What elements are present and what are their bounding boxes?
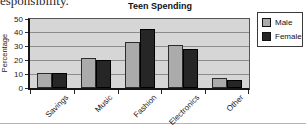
x-category-label-music: Music [65,93,114,125]
bar-male-fashion [125,42,140,88]
bar-male-other [212,78,227,88]
y-tick-label-0: 0 [0,84,23,93]
x-category-label-savings: Savings [21,93,70,125]
y-tick-label-10: 10 [0,70,23,79]
y-tick-mark-40 [25,32,28,33]
bar-female-other [227,80,242,88]
legend-label-female: Female [275,32,302,41]
y-tick-label-50: 50 [0,15,23,24]
bar-female-savings [52,73,67,88]
y-tick-label-40: 40 [0,28,23,37]
x-category-label-other: Other [197,93,246,125]
chart-title: Teen Spending [90,1,230,11]
y-tick-label-20: 20 [0,56,23,65]
plot-area [28,18,250,90]
legend-swatch-female [262,32,271,41]
bar-female-fashion [140,29,155,88]
x-category-label-fashion: Fashion [109,93,158,125]
x-tick-mark-5 [248,90,249,94]
bar-female-electronics [183,49,198,88]
x-tick-mark-0 [30,90,31,94]
x-tick-mark-3 [161,90,162,94]
bar-male-savings [37,73,52,88]
bar-male-electronics [168,45,183,88]
legend-item-female: Female [262,32,298,41]
legend: MaleFemale [257,12,303,47]
figure-teen-spending: esponsibility. Teen Spending Percentage … [0,0,306,125]
y-tick-mark-0 [25,88,28,89]
y-tick-label-30: 30 [0,42,23,51]
bar-male-music [81,58,96,88]
y-tick-mark-10 [25,74,28,75]
legend-label-male: Male [275,18,292,27]
x-tick-mark-4 [205,90,206,94]
legend-item-male: Male [262,18,298,27]
cropped-page-text: esponsibility. [0,0,69,9]
legend-swatch-male [262,18,271,27]
y-tick-mark-20 [25,60,28,61]
x-tick-mark-2 [118,90,119,94]
x-category-label-electronics: Electronics [153,93,202,125]
y-tick-mark-50 [25,19,28,20]
bar-female-music [96,60,111,88]
x-tick-mark-1 [74,90,75,94]
y-tick-mark-30 [25,46,28,47]
